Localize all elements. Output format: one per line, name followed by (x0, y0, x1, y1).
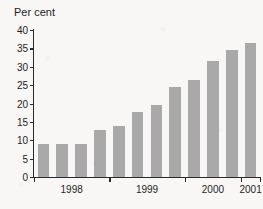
bar (38, 144, 50, 177)
y-axis-tick-label: 0 (22, 172, 28, 183)
bar (132, 112, 144, 177)
x-axis-group-label: 2000 (202, 184, 224, 195)
bar (56, 144, 68, 177)
y-axis-tick-mark (30, 30, 34, 31)
bar (75, 144, 87, 177)
x-axis-line (33, 177, 260, 178)
y-axis-tick-label: 40 (17, 25, 28, 36)
x-axis-tick-mark (185, 177, 186, 182)
y-axis-tick-mark (30, 140, 34, 141)
x-axis-tick-mark (241, 177, 242, 182)
bar (188, 80, 200, 177)
bar (226, 50, 238, 177)
y-axis-tick-label: 35 (17, 43, 28, 54)
y-axis-tick-mark (30, 159, 34, 160)
y-axis-tick-label: 15 (17, 116, 28, 127)
bar (169, 87, 181, 177)
x-axis-group-label: 1998 (61, 184, 83, 195)
x-axis-tick-mark (109, 177, 110, 182)
bar (113, 126, 125, 177)
y-axis-tick-label: 25 (17, 80, 28, 91)
y-axis-tick-mark (30, 104, 34, 105)
x-axis-group-label: 1999 (136, 184, 158, 195)
x-axis-group-label: 2001 (239, 184, 261, 195)
bar (245, 43, 257, 177)
bar (151, 105, 163, 177)
x-axis-tick-mark (260, 177, 261, 182)
y-axis-tick-mark (30, 122, 34, 123)
plot-area: 0510152025303540 (34, 30, 260, 177)
y-axis-tick-mark (30, 85, 34, 86)
bar (94, 130, 106, 177)
bar-chart: Per cent 0510152025303540 19981999200020… (0, 0, 263, 209)
x-axis-tick-mark (34, 177, 35, 182)
bar (207, 61, 219, 177)
y-axis-tick-label: 30 (17, 61, 28, 72)
y-axis-tick-label: 20 (17, 98, 28, 109)
y-axis-tick-mark (30, 67, 34, 68)
y-axis-tick-label: 5 (22, 153, 28, 164)
y-axis-title: Per cent (14, 6, 55, 18)
y-axis-tick-label: 10 (17, 135, 28, 146)
y-axis-tick-mark (30, 48, 34, 49)
